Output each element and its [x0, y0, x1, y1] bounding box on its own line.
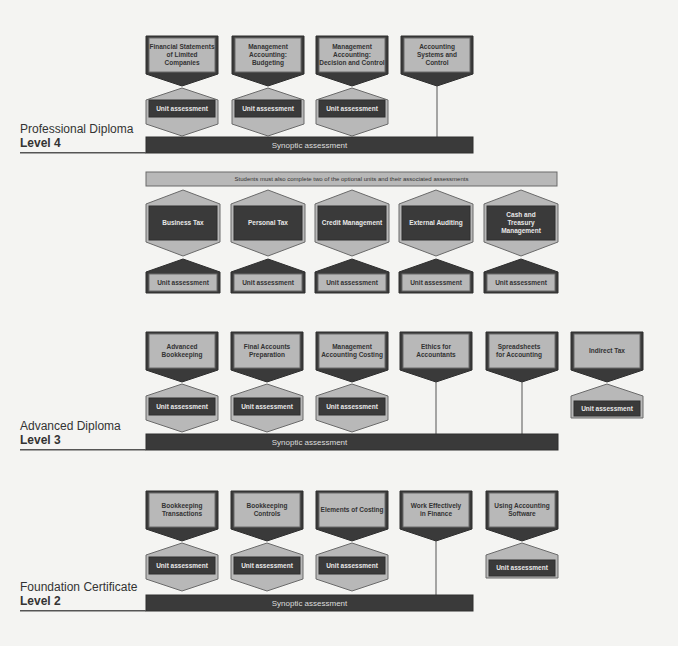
l4-unit-1-assessment: Unit assessment [149, 100, 215, 117]
l2-unit-1-name: Bookkeeping Transactions [149, 493, 215, 527]
l4-opt-1-name: Business Tax [149, 206, 217, 240]
level-3-title: Advanced Diploma [20, 419, 121, 433]
l4-unit-3-assessment: Unit assessment [319, 100, 385, 117]
l3-unit-2-name: Final Accounts Preparation [234, 334, 300, 368]
l4-opt-1-assessment: Unit assessment [149, 274, 217, 291]
l2-unit-4-name: Work Effectively in Finance [408, 493, 464, 527]
l3-unit-1-assessment: Unit assessment [149, 398, 215, 415]
l2-unit-2-assessment: Unit assessment [234, 557, 300, 574]
l2-unit-5-name: Using Accounting Software [491, 493, 553, 527]
l4-unit-1-name: Financial Statements of Limited Companie… [149, 38, 215, 72]
level-4-number: Level 4 [20, 136, 146, 150]
l4-opt-3-name: Credit Management [318, 206, 386, 240]
l3-unit-2-assessment: Unit assessment [234, 398, 300, 415]
l2-synoptic-assessment: Synoptic assessment [146, 595, 473, 611]
l2-unit-1-assessment: Unit assessment [149, 557, 215, 574]
l4-unit-2-assessment: Unit assessment [235, 100, 301, 117]
l3-synoptic-assessment: Synoptic assessment [146, 434, 473, 450]
l4-synoptic-assessment: Synoptic assessment [146, 137, 473, 153]
l3-unit-3-assessment: Unit assessment [319, 398, 385, 415]
level-3-label: Advanced Diploma Level 3 [20, 419, 146, 450]
qualification-diagram: .dk { fill: #3a3a3a; stroke: #2e2e2e; st… [0, 0, 678, 646]
diagram-shapes: .dk { fill: #3a3a3a; stroke: #2e2e2e; st… [0, 0, 678, 646]
level-3-number: Level 3 [20, 433, 146, 447]
l3-unit-4-name: Ethics for Accountants [410, 334, 462, 368]
l4-unit-3-name: Management Accounting: Decision and Cont… [319, 38, 385, 72]
l3-unit-6-name: Indirect Tax [574, 334, 640, 368]
l4-unit-2-name: Management Accounting: Budgeting [235, 38, 301, 72]
l2-unit-5-assessment: Unit assessment [489, 560, 555, 576]
l2-unit-3-assessment: Unit assessment [319, 557, 385, 574]
l3-unit-6-assessment: Unit assessment [574, 401, 640, 416]
level-4-label: Professional Diploma Level 4 [20, 122, 146, 153]
l2-unit-3-name: Elements of Costing [319, 493, 385, 527]
l4-opt-3-assessment: Unit assessment [318, 274, 386, 291]
l4-optional-note: Students must also complete two of the o… [146, 172, 557, 186]
l3-unit-5-name: Spreadsheets for Accounting [496, 334, 542, 368]
level-4-title: Professional Diploma [20, 122, 133, 136]
l4-opt-2-name: Personal Tax [234, 206, 302, 240]
l4-unit-4-name: Accounting Systems and Control [410, 38, 464, 72]
l2-unit-2-name: Bookkeeping Controls [234, 493, 300, 527]
level-2-title: Foundation Certificate [20, 580, 137, 594]
l4-opt-4-name: External Auditing [402, 206, 470, 240]
level-2-number: Level 2 [20, 594, 146, 608]
l3-unit-3-name: Management Accounting Costing [319, 334, 385, 368]
l3-unit-1-name: Advanced Bookkeeping [149, 334, 215, 368]
l4-opt-4-assessment: Unit assessment [402, 274, 470, 291]
l4-opt-5-name: Cash and Treasury Management [493, 206, 549, 240]
level-2-label: Foundation Certificate Level 2 [20, 580, 146, 611]
l4-opt-2-assessment: Unit assessment [234, 274, 302, 291]
l4-opt-5-assessment: Unit assessment [487, 274, 555, 291]
